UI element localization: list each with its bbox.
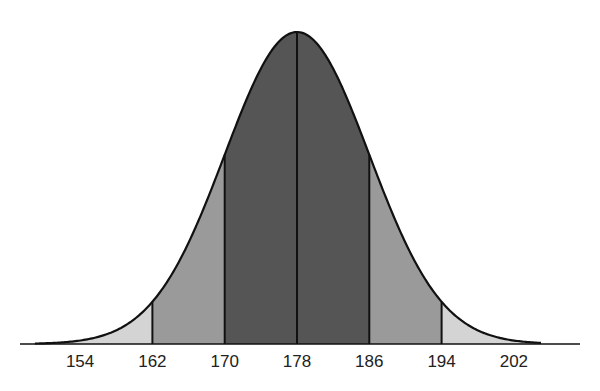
tick-label-202: 202 bbox=[500, 352, 528, 371]
shaded-regions bbox=[35, 32, 541, 344]
x-tick-labels: 154162170178186194202 bbox=[66, 352, 528, 371]
tick-label-162: 162 bbox=[138, 352, 166, 371]
tick-label-186: 186 bbox=[355, 352, 383, 371]
region-4 bbox=[442, 302, 541, 344]
tick-label-154: 154 bbox=[66, 352, 94, 371]
tick-label-194: 194 bbox=[427, 352, 455, 371]
normal-distribution-chart: 154162170178186194202 bbox=[0, 0, 600, 391]
tick-label-178: 178 bbox=[283, 352, 311, 371]
tick-label-170: 170 bbox=[211, 352, 239, 371]
